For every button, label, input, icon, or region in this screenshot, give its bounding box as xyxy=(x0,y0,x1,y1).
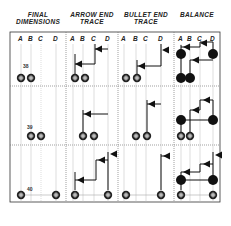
header-arrow-end-trace: ARROW END TRACE xyxy=(66,11,118,25)
svg-text:D: D xyxy=(53,35,58,42)
svg-text:B: B xyxy=(133,35,138,42)
svg-text:D: D xyxy=(105,35,110,42)
header-final-dimensions: FINAL DIMENSIONS xyxy=(10,11,66,25)
diagram-canvas: ABCD ABCD ABCD ABCD 38 39 40 xyxy=(0,0,231,226)
row-label-39: 39 xyxy=(27,124,33,130)
dimension-trace-diagram: FINAL DIMENSIONS ARROW END TRACE BULLET … xyxy=(0,0,231,226)
sub-column-labels: ABCD ABCD ABCD ABCD xyxy=(17,35,215,42)
panel-dividers xyxy=(10,32,220,202)
svg-text:C: C xyxy=(38,35,43,42)
svg-text:A: A xyxy=(120,35,126,42)
svg-text:B: B xyxy=(187,35,192,42)
svg-text:B: B xyxy=(80,35,85,42)
svg-text:A: A xyxy=(69,35,75,42)
svg-text:C: C xyxy=(91,35,96,42)
svg-text:C: C xyxy=(143,35,148,42)
svg-text:B: B xyxy=(28,35,33,42)
svg-text:D: D xyxy=(210,35,215,42)
header-balance: BALANCE xyxy=(174,11,220,18)
outer-frame xyxy=(10,32,220,202)
row-label-38: 38 xyxy=(23,63,29,69)
svg-text:D: D xyxy=(158,35,163,42)
svg-text:A: A xyxy=(17,35,23,42)
svg-text:A: A xyxy=(177,35,183,42)
row-label-40: 40 xyxy=(27,186,33,192)
header-bullet-end-trace: BULLET END TRACE xyxy=(118,11,174,25)
svg-text:C: C xyxy=(197,35,202,42)
